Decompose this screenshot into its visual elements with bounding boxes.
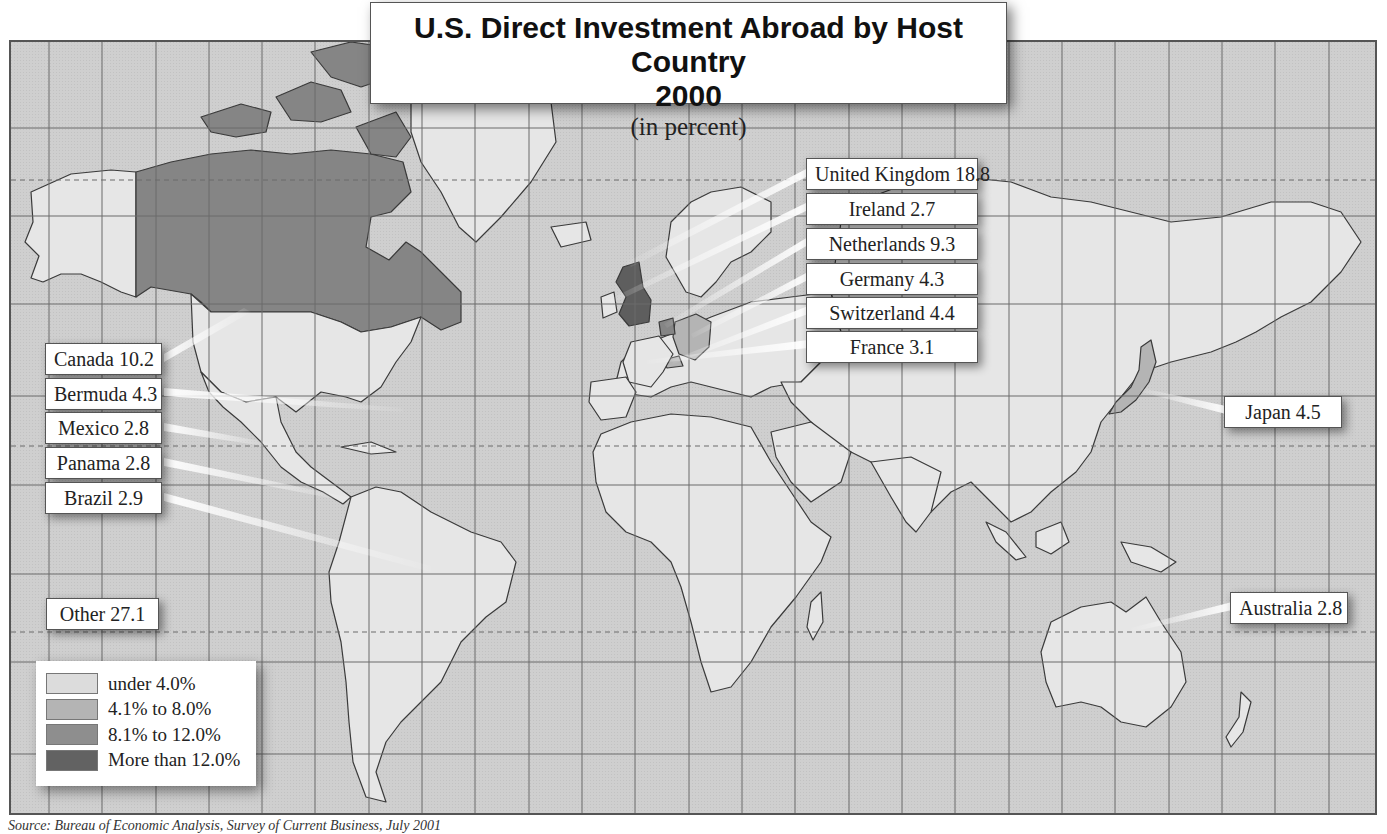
label-canada: Canada 10.2 xyxy=(45,343,162,375)
legend-label-8-to-12: 8.1% to 12.0% xyxy=(108,724,221,746)
title-box: U.S. Direct Investment Abroad by Host Co… xyxy=(370,2,1007,104)
label-brazil: Brazil 2.9 xyxy=(45,482,162,514)
label-united-kingdom: United Kingdom 18.8 xyxy=(806,158,978,190)
legend-swatch-under-4 xyxy=(46,673,98,694)
legend-item-under-4: under 4.0% xyxy=(46,671,256,697)
legend-label-4-to-8: 4.1% to 8.0% xyxy=(108,698,211,720)
label-switzerland: Switzerland 4.4 xyxy=(806,297,978,329)
label-france: France 3.1 xyxy=(806,331,978,363)
legend-swatch-8-to-12 xyxy=(46,724,98,745)
map-title: U.S. Direct Investment Abroad by Host Co… xyxy=(371,11,1006,113)
map-title-line2: 2000 xyxy=(371,79,1006,113)
label-bermuda: Bermuda 4.3 xyxy=(45,378,162,410)
label-japan: Japan 4.5 xyxy=(1224,396,1342,428)
legend-item-4-to-8: 4.1% to 8.0% xyxy=(46,697,256,723)
legend-swatch-4-to-8 xyxy=(46,699,98,720)
label-other: Other 27.1 xyxy=(46,598,159,630)
legend-item-8-to-12: 8.1% to 12.0% xyxy=(46,722,256,748)
label-australia: Australia 2.8 xyxy=(1230,592,1348,624)
legend-swatch-over-12 xyxy=(46,750,98,771)
map-title-line1: U.S. Direct Investment Abroad by Host Co… xyxy=(371,11,1006,79)
label-germany: Germany 4.3 xyxy=(806,263,978,295)
map-subtitle: (in percent) xyxy=(371,113,1006,141)
label-netherlands: Netherlands 9.3 xyxy=(806,228,978,260)
legend-item-over-12: More than 12.0% xyxy=(46,748,256,774)
source-note: Source: Bureau of Economic Analysis, Sur… xyxy=(8,818,441,834)
legend-label-under-4: under 4.0% xyxy=(108,673,196,695)
label-mexico: Mexico 2.8 xyxy=(45,412,162,444)
legend-label-over-12: More than 12.0% xyxy=(108,749,240,771)
legend: under 4.0% 4.1% to 8.0% 8.1% to 12.0% Mo… xyxy=(36,661,256,786)
label-ireland: Ireland 2.7 xyxy=(806,193,978,225)
label-panama: Panama 2.8 xyxy=(45,447,162,479)
